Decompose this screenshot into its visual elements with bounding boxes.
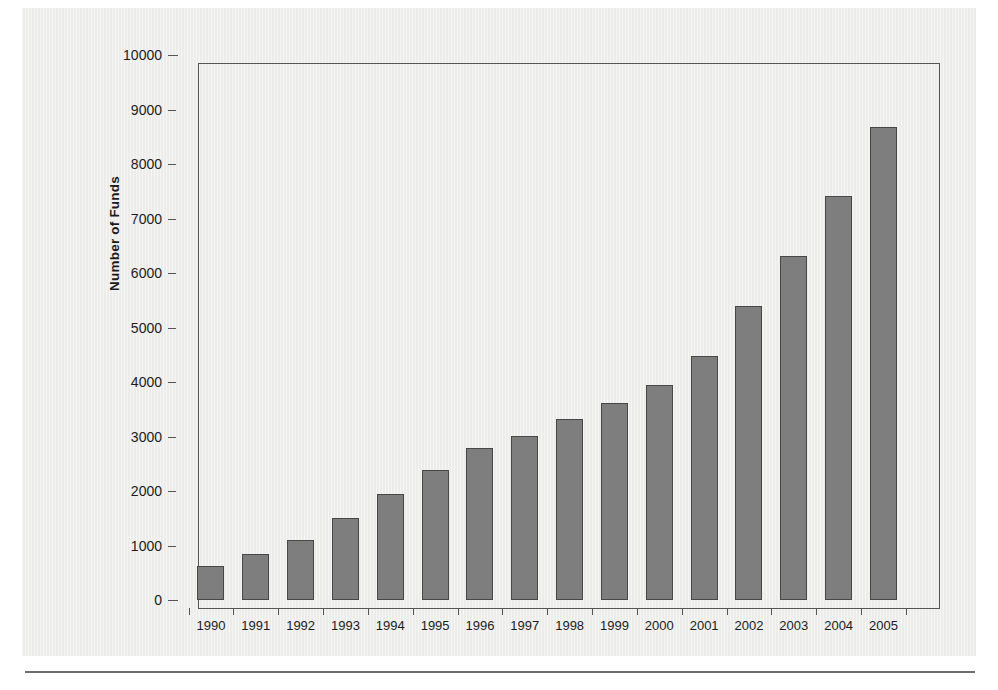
- x-axis-tick-mark: [233, 608, 234, 615]
- x-axis-tick-label: 2005: [856, 618, 910, 633]
- horizontal-rule: [25, 671, 975, 673]
- bar: [691, 356, 718, 600]
- x-axis-tick-mark: [682, 608, 683, 615]
- bar: [377, 494, 404, 600]
- y-axis-tick-mark: [168, 110, 176, 111]
- y-axis-tick-label: 9000: [102, 102, 162, 118]
- figure-page: 0100020003000400050006000700080009000100…: [0, 0, 998, 690]
- bar: [242, 554, 269, 600]
- x-axis-tick-mark: [727, 608, 728, 615]
- bar: [287, 540, 314, 600]
- y-axis-ticks-group: 0100020003000400050006000700080009000100…: [22, 8, 198, 690]
- x-axis-tick-mark: [413, 608, 414, 615]
- x-axis-tick-mark: [278, 608, 279, 615]
- y-axis-tick-label: 4000: [102, 374, 162, 390]
- x-axis-tick-mark: [637, 608, 638, 615]
- x-axis-tick-mark: [816, 608, 817, 615]
- bar: [466, 448, 493, 600]
- y-axis-tick-label: 1000: [102, 538, 162, 554]
- bar-chart-plot-area: 0100020003000400050006000700080009000100…: [22, 8, 976, 656]
- y-axis-tick-label: 10000: [102, 47, 162, 63]
- x-axis-tick-mark: [189, 608, 190, 615]
- x-axis-tick-mark: [458, 608, 459, 615]
- x-axis-tick-mark: [323, 608, 324, 615]
- x-axis-tick-mark: [861, 608, 862, 615]
- bar: [735, 306, 762, 600]
- bar: [197, 566, 224, 600]
- y-axis-tick-label: 2000: [102, 483, 162, 499]
- y-axis-tick-mark: [168, 546, 176, 547]
- x-axis-tick-mark: [906, 608, 907, 615]
- bar: [556, 419, 583, 600]
- bar: [646, 385, 673, 600]
- y-axis-tick-mark: [168, 328, 176, 329]
- bar: [870, 127, 897, 600]
- bar: [601, 403, 628, 600]
- x-axis-tick-mark: [547, 608, 548, 615]
- y-axis-tick-mark: [168, 491, 176, 492]
- y-axis-tick-label: 3000: [102, 429, 162, 445]
- bar: [332, 518, 359, 600]
- y-axis-tick-label: 0: [102, 592, 162, 608]
- y-axis-tick-mark: [168, 273, 176, 274]
- y-axis-title: Number of Funds: [107, 124, 122, 344]
- y-axis-tick-mark: [168, 382, 176, 383]
- x-axis-line: [198, 608, 940, 609]
- y-axis-tick-mark: [168, 600, 178, 601]
- bar: [422, 470, 449, 600]
- x-axis-tick-mark: [592, 608, 593, 615]
- x-axis-tick-mark: [502, 608, 503, 615]
- x-axis-tick-mark: [771, 608, 772, 615]
- x-axis-tick-mark: [368, 608, 369, 615]
- y-axis-tick-mark: [168, 164, 176, 165]
- y-axis-tick-mark: [168, 55, 178, 56]
- bar: [825, 196, 852, 600]
- bar: [511, 436, 538, 600]
- bar: [780, 256, 807, 600]
- y-axis-tick-mark: [168, 219, 176, 220]
- y-axis-tick-mark: [168, 437, 176, 438]
- scanned-page-panel: 0100020003000400050006000700080009000100…: [22, 8, 976, 656]
